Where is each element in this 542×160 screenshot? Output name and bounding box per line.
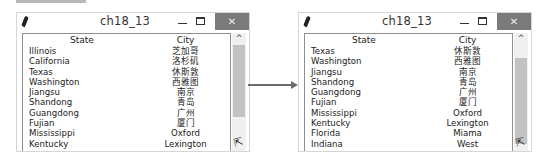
table-row[interactable]: FloridaMiama [305, 128, 512, 138]
cell-state: Shandong [23, 97, 141, 107]
cell-city: West [423, 139, 512, 149]
minimize-button[interactable] [460, 17, 469, 25]
close-button[interactable]: ✕ [497, 13, 531, 30]
close-button[interactable]: ✕ [215, 13, 249, 30]
cell-state: Washington [23, 77, 141, 87]
table-row[interactable]: MississippiOxford [23, 128, 230, 138]
table-row[interactable]: Guangdong广州 [305, 87, 512, 97]
table-row[interactable]: Fujian厦门 [305, 97, 512, 107]
cell-city: Oxford [141, 128, 230, 138]
window-title: ch18_13 [100, 14, 150, 28]
table-row[interactable]: Fujian厦门 [23, 118, 230, 128]
vertical-scrollbar[interactable]: ^ ⇱ [514, 33, 528, 151]
cell-city: 西雅图 [141, 77, 230, 87]
cell-city: 广州 [141, 108, 230, 118]
cell-state: Mississippi [305, 108, 423, 118]
cell-state: Texas [23, 67, 141, 77]
scroll-thumb[interactable] [515, 58, 527, 144]
cell-state: Guangdong [305, 87, 423, 97]
cell-state: Fujian [305, 97, 423, 107]
cell-city: Oxford [423, 108, 512, 118]
table-row[interactable]: KentuckyLexington [305, 118, 512, 128]
column-header-city[interactable]: City [423, 34, 512, 46]
table-row[interactable]: Texas休斯敦 [23, 67, 230, 77]
scroll-up-arrow-icon[interactable]: ^ [514, 33, 528, 45]
cell-state: Florida [305, 128, 423, 138]
arrow-head-icon [291, 81, 298, 89]
cell-city: 广州 [423, 87, 512, 97]
cell-city: Lexington [141, 139, 230, 149]
cell-city: 洛杉矶 [141, 56, 230, 66]
treeview-list[interactable]: State City Texas休斯敦Washington西雅图Jiangsu南… [304, 33, 513, 151]
maximize-button[interactable] [196, 17, 205, 25]
maximize-button[interactable] [478, 17, 487, 25]
cell-city: 休斯敦 [423, 46, 512, 56]
table-row[interactable]: Shandong青岛 [305, 77, 512, 87]
table-row[interactable]: Shandong青岛 [23, 97, 230, 107]
cell-state: Shandong [305, 77, 423, 87]
table-row[interactable]: MississippiOxford [305, 108, 512, 118]
column-header-state[interactable]: State [305, 34, 423, 46]
column-header-city[interactable]: City [141, 34, 230, 46]
cell-state: Fujian [23, 118, 141, 128]
scroll-thumb[interactable] [233, 45, 245, 117]
title-bar[interactable]: ch18_13 ✕ [299, 13, 531, 31]
table-row[interactable]: KentuckyLexington [23, 139, 230, 149]
cell-state: California [23, 56, 141, 66]
cell-state: Jiangsu [305, 67, 423, 77]
vertical-scrollbar[interactable]: ^ ⇱ [232, 33, 246, 151]
column-header-state[interactable]: State [23, 34, 141, 46]
cell-state: Jiangsu [23, 87, 141, 97]
top-decoration-bar [16, 0, 86, 3]
table-row[interactable]: Jiangsu南京 [23, 87, 230, 97]
cell-state: Washington [305, 56, 423, 66]
window-after-scroll: ch18_13 ✕ State City Texas休斯敦Washington西… [298, 12, 532, 152]
cell-state: Illinois [23, 46, 141, 56]
cell-state: Guangdong [23, 108, 141, 118]
list-header: State City [23, 34, 230, 46]
cell-city: 南京 [423, 67, 512, 77]
table-row[interactable]: Guangdong广州 [23, 108, 230, 118]
table-row[interactable]: IndianaWest [305, 139, 512, 149]
window-before-scroll: ch18_13 ✕ State City Illinois芝加哥Californ… [16, 12, 250, 152]
table-row[interactable]: Texas休斯敦 [305, 46, 512, 56]
table-row[interactable]: Jiangsu南京 [305, 67, 512, 77]
cell-state: Indiana [305, 139, 423, 149]
treeview-list[interactable]: State City Illinois芝加哥California洛杉矶Texas… [22, 33, 231, 151]
cell-state: Kentucky [305, 118, 423, 128]
table-row[interactable]: California洛杉矶 [23, 56, 230, 66]
list-header: State City [305, 34, 512, 46]
cell-city: 南京 [141, 87, 230, 97]
cell-city: 休斯敦 [141, 67, 230, 77]
minimize-button[interactable] [178, 17, 187, 25]
scroll-up-arrow-icon[interactable]: ^ [232, 33, 246, 45]
cell-city: 青岛 [141, 97, 230, 107]
window-title: ch18_13 [382, 14, 432, 28]
cell-city: Miama [423, 128, 512, 138]
mouse-cursor-icon: ⇱ [232, 135, 244, 150]
cell-state: Texas [305, 46, 423, 56]
cell-city: Lexington [423, 118, 512, 128]
title-bar[interactable]: ch18_13 ✕ [17, 13, 249, 31]
cell-city: 青岛 [423, 77, 512, 87]
cell-state: Mississippi [23, 128, 141, 138]
cell-city: 厦门 [423, 97, 512, 107]
cell-city: 芝加哥 [141, 46, 230, 56]
table-row[interactable]: Washington西雅图 [23, 77, 230, 87]
cell-city: 西雅图 [423, 56, 512, 66]
cell-state: Kentucky [23, 139, 141, 149]
right-arrow-icon [248, 84, 292, 86]
table-row[interactable]: Washington西雅图 [305, 56, 512, 66]
cell-city: 厦门 [141, 118, 230, 128]
table-row[interactable]: Illinois芝加哥 [23, 46, 230, 56]
